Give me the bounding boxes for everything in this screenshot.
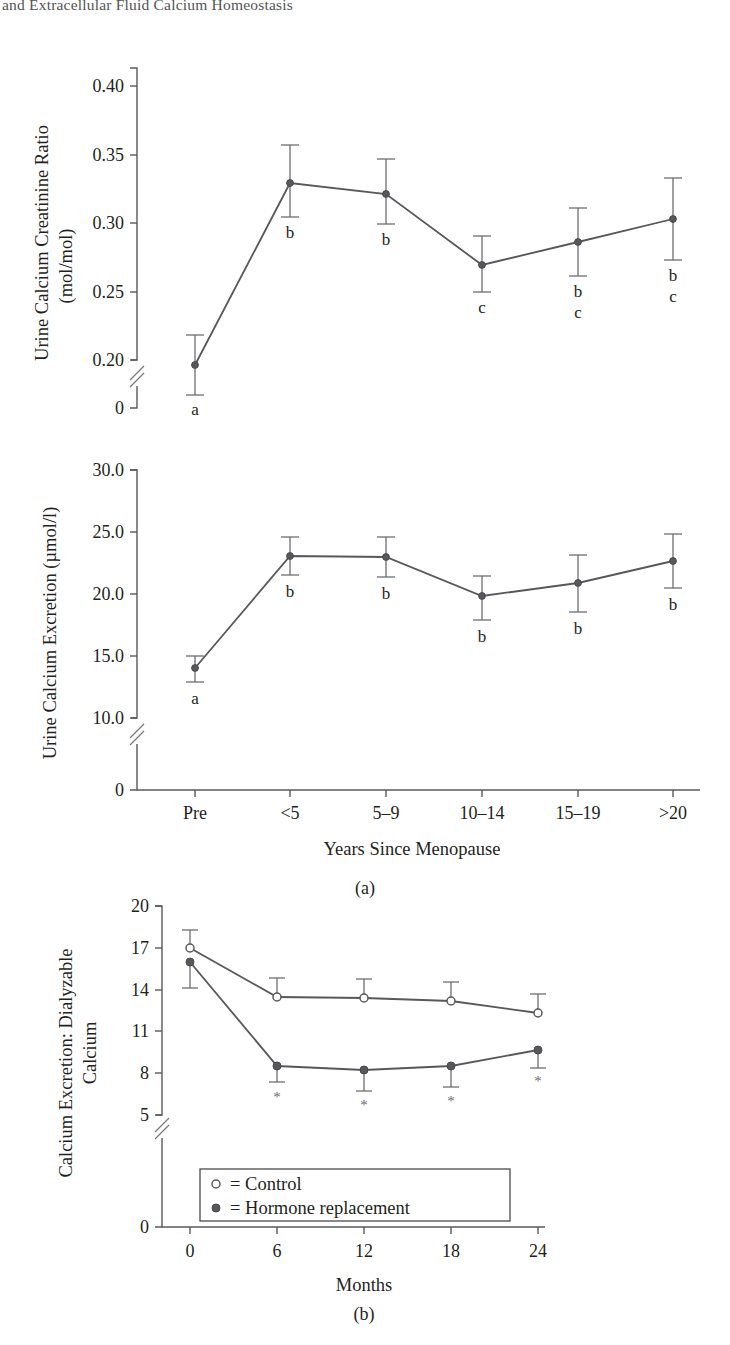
chart1-sig-4a: b — [574, 282, 583, 301]
chart1-point-1 — [287, 180, 294, 187]
chart1-point-5 — [670, 216, 677, 223]
chart3-xtick-0: 0 — [186, 1241, 195, 1261]
chart2-sig-3: b — [478, 627, 487, 646]
chart2-xtick-2: 5–9 — [373, 803, 400, 823]
chart-urine-calcium-excretion: Urine Calcium Excretion (µmol/l) 30.0 25… — [40, 460, 700, 859]
panel-a-label: (a) — [355, 878, 375, 899]
chart1-ylabel-line1: Urine Calcium Creatinine Ratio — [32, 125, 52, 361]
chart2-xtick-3: 10–14 — [460, 803, 505, 823]
chart2-ylabel: Urine Calcium Excretion (µmol/l) — [40, 507, 61, 760]
chart3-x-ticks — [190, 1227, 538, 1234]
chart3-legend: = Control = Hormone replacement — [200, 1169, 510, 1221]
chart1-ytick-4: 0.20 — [93, 350, 125, 370]
chart2-y-axis-lower — [130, 744, 137, 790]
chart2-xtick-5: >20 — [659, 803, 687, 823]
chart3-xtick-1: 6 — [273, 1241, 282, 1261]
chart2-y-tick-labels: 30.0 25.0 20.0 15.0 10.0 0 — [93, 460, 125, 800]
chart3-ytick-2: 14 — [131, 980, 149, 1000]
chart1-sig-4b: c — [574, 303, 582, 322]
chart3-hrt-point-2 — [360, 1066, 368, 1074]
chart1-sig-1: b — [286, 223, 295, 242]
chart-urine-calcium-creatinine-ratio: Urine Calcium Creatinine Ratio (mol/mol)… — [32, 68, 682, 419]
chart2-x-ticks — [195, 790, 673, 797]
chart2-x-tick-labels: Pre <5 5–9 10–14 15–19 >20 — [183, 803, 687, 823]
chart1-axis-break-mark-1 — [130, 366, 144, 380]
chart-calcium-excretion-dialyzable: Calcium Excretion: Dialyzable Calcium 20… — [56, 896, 547, 1295]
chart2-sig-4: b — [574, 619, 583, 638]
chart1-point-2 — [383, 191, 390, 198]
chart1-y-tick-labels: 0.40 0.35 0.30 0.25 0.20 0 — [93, 76, 125, 418]
chart2-ytick-3: 15.0 — [93, 646, 125, 666]
chart1-y-axis-upper — [130, 68, 137, 360]
chart1-axis-break-mark-2 — [130, 373, 144, 387]
chart2-point-0 — [192, 665, 199, 672]
chart3-star-4: * — [534, 1073, 542, 1089]
legend-label-control: = Control — [230, 1174, 302, 1194]
chart3-y-axis-lower — [155, 1138, 162, 1227]
chart3-ytick-0: 20 — [131, 896, 149, 916]
chart2-ytick-2: 20.0 — [93, 584, 125, 604]
chart1-point-0 — [192, 362, 199, 369]
chart2-ytick-5: 0 — [115, 780, 124, 800]
chart3-x-tick-labels: 0 6 12 18 24 — [186, 1241, 548, 1261]
running-title-text: and Extracellular Fluid Calcium Homeosta… — [0, 0, 730, 14]
chart3-ytick-3: 11 — [132, 1021, 149, 1041]
chart3-ytick-1: 17 — [131, 938, 149, 958]
legend-label-hormone-replacement: = Hormone replacement — [230, 1198, 411, 1218]
chart3-xlabel: Months — [336, 1275, 393, 1295]
chart3-hrt-point-1 — [273, 1062, 281, 1070]
chart1-series-line — [195, 183, 673, 365]
chart1-ytick-0: 0.40 — [93, 76, 125, 96]
chart1-sig-5a: b — [669, 266, 678, 285]
figure-container: Urine Calcium Creatinine Ratio (mol/mol)… — [0, 18, 730, 1345]
chart2-xtick-0: Pre — [183, 803, 207, 823]
chart2-series-line — [195, 556, 673, 668]
chart3-xtick-2: 12 — [355, 1241, 373, 1261]
chart3-control-point-0 — [186, 944, 194, 952]
chart2-errorbars — [186, 534, 682, 682]
chart3-ylabel-line2: Calcium — [80, 1021, 100, 1084]
chart3-star-3: * — [447, 1093, 455, 1109]
chart3-ytick-6: 0 — [140, 1217, 149, 1237]
chart1-ytick-5: 0 — [115, 398, 124, 418]
chart1-y-ticks — [130, 86, 137, 360]
chart1-sig-5b: c — [669, 287, 677, 306]
page-running-header: and Extracellular Fluid Calcium Homeosta… — [0, 0, 730, 14]
chart1-ytick-1: 0.35 — [93, 145, 125, 165]
chart3-significance-stars: * * * * — [273, 1073, 542, 1113]
chart3-control-point-3 — [447, 997, 455, 1005]
chart2-point-1 — [287, 553, 294, 560]
chart3-control-point-2 — [360, 994, 368, 1002]
chart1-significance-labels: a b b c b c b c — [191, 223, 677, 419]
chart3-axis-break-mark-1 — [155, 1118, 169, 1132]
chart3-xtick-3: 18 — [442, 1241, 460, 1261]
chart1-errorbars — [186, 145, 682, 395]
figure-svg: Urine Calcium Creatinine Ratio (mol/mol)… — [0, 18, 730, 1345]
chart3-star-2: * — [360, 1097, 368, 1113]
chart2-ytick-4: 10.0 — [93, 708, 125, 728]
panel-b-label: (b) — [354, 1304, 375, 1325]
chart3-axis-break-mark-2 — [155, 1125, 169, 1139]
chart2-sig-2: b — [382, 584, 391, 603]
legend-marker-open-circle-icon — [212, 1180, 220, 1188]
chart3-hrt-point-0 — [186, 958, 194, 966]
chart3-xtick-4: 24 — [529, 1241, 547, 1261]
chart3-hrt-point-3 — [447, 1062, 455, 1070]
chart3-ytick-5: 5 — [140, 1105, 149, 1125]
chart2-xtick-4: 15–19 — [556, 803, 601, 823]
chart1-ytick-2: 0.30 — [93, 213, 125, 233]
chart1-point-4 — [575, 239, 582, 246]
chart2-point-3 — [479, 593, 486, 600]
chart1-ylabel-line2: (mol/mol) — [56, 228, 77, 303]
chart3-hrt-point-4 — [534, 1046, 542, 1054]
chart3-y-ticks — [155, 906, 162, 1115]
chart1-sig-2: b — [382, 230, 391, 249]
chart2-xtick-1: <5 — [280, 803, 299, 823]
chart2-point-5 — [670, 558, 677, 565]
chart1-y-axis-lower — [130, 386, 137, 408]
chart1-sig-3: c — [478, 298, 486, 317]
chart2-axis-break-mark-1 — [130, 724, 144, 738]
chart2-y-ticks — [130, 470, 137, 718]
chart3-y-axis-upper — [155, 906, 162, 1115]
chart2-markers — [192, 553, 677, 672]
